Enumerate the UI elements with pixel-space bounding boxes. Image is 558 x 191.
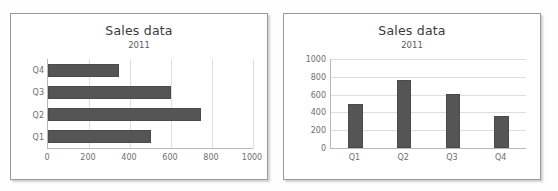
y-tick-label: 0 bbox=[321, 144, 326, 153]
y-tick-label: 1000 bbox=[306, 55, 326, 64]
gridline-horizontal bbox=[331, 95, 526, 96]
y-tick-label: 800 bbox=[311, 72, 326, 81]
x-tick-label: 200 bbox=[80, 153, 95, 162]
x-tick-label: 400 bbox=[121, 153, 136, 162]
left-chart-category-axis: Q4Q3Q2Q1 bbox=[19, 59, 44, 149]
gridline-vertical bbox=[212, 59, 213, 148]
right-chart-value-axis: 02004006008001000 bbox=[292, 59, 326, 149]
category-label-q2: Q2 bbox=[397, 153, 408, 162]
screenshot-root: Sales data 2011 Q4Q3Q2Q1 020040060080010… bbox=[0, 0, 558, 191]
horizontal-bar-chart: Sales data 2011 Q4Q3Q2Q1 020040060080010… bbox=[11, 14, 267, 179]
bar-q1[interactable] bbox=[48, 130, 151, 143]
y-tick-label: 600 bbox=[311, 90, 326, 99]
right-chart-subtitle: 2011 bbox=[284, 40, 540, 50]
bar-q2[interactable] bbox=[397, 80, 412, 148]
y-tick-label: 400 bbox=[311, 108, 326, 117]
x-tick-label: 600 bbox=[162, 153, 177, 162]
category-label-q4: Q4 bbox=[33, 66, 44, 75]
x-tick-label: 800 bbox=[203, 153, 218, 162]
x-tick-label: 0 bbox=[44, 153, 49, 162]
bar-q4[interactable] bbox=[48, 64, 119, 77]
category-label-q4: Q4 bbox=[495, 153, 506, 162]
right-chart-title: Sales data bbox=[284, 23, 540, 38]
bar-q1[interactable] bbox=[348, 104, 363, 149]
category-label-q2: Q2 bbox=[33, 110, 44, 119]
left-chart-title: Sales data bbox=[11, 23, 267, 38]
bar-q3[interactable] bbox=[48, 86, 171, 99]
vertical-bar-chart: Sales data 2011 02004006008001000 Q1Q2Q3… bbox=[284, 14, 540, 179]
gridline-vertical bbox=[171, 59, 172, 148]
bar-q2[interactable] bbox=[48, 108, 201, 121]
right-chart-plot-area bbox=[330, 59, 526, 149]
category-label-q3: Q3 bbox=[446, 153, 457, 162]
category-label-q1: Q1 bbox=[33, 132, 44, 141]
y-tick-label: 200 bbox=[311, 126, 326, 135]
gridline-horizontal bbox=[331, 59, 526, 60]
gridline-horizontal bbox=[331, 77, 526, 78]
right-chart-panel[interactable]: Sales data 2011 02004006008001000 Q1Q2Q3… bbox=[283, 13, 541, 180]
x-tick-label: 1000 bbox=[242, 153, 262, 162]
bar-q4[interactable] bbox=[494, 116, 509, 148]
left-chart-subtitle: 2011 bbox=[11, 40, 267, 50]
category-label-q3: Q3 bbox=[33, 88, 44, 97]
category-label-q1: Q1 bbox=[349, 153, 360, 162]
left-chart-panel[interactable]: Sales data 2011 Q4Q3Q2Q1 020040060080010… bbox=[10, 13, 268, 180]
gridline-vertical bbox=[253, 59, 254, 148]
left-chart-plot-area bbox=[47, 59, 253, 149]
bar-q3[interactable] bbox=[446, 94, 461, 148]
